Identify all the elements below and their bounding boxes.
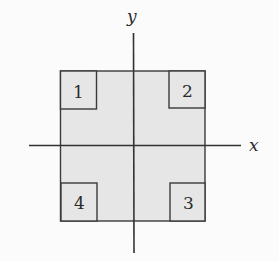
x-axis-label: x <box>249 135 259 155</box>
corner-box-1-label: 1 <box>73 82 84 102</box>
corner-box-2-label: 2 <box>182 81 193 101</box>
diagram-canvas: x y 1 2 3 4 <box>0 0 279 261</box>
y-axis-line <box>134 33 135 253</box>
corner-box-3-label: 3 <box>183 193 194 213</box>
y-axis-label: y <box>126 6 137 26</box>
corner-box-4-label: 4 <box>74 193 85 213</box>
